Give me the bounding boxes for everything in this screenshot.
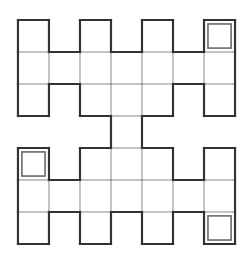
grid-cell[interactable] — [111, 180, 142, 212]
grid-cell[interactable] — [18, 180, 49, 212]
puzzle-board — [16, 18, 237, 246]
grid-cell[interactable] — [173, 52, 204, 84]
grid-cell[interactable] — [80, 84, 111, 116]
grid-cell[interactable] — [111, 84, 142, 116]
grid-cell[interactable] — [80, 148, 111, 180]
grid-cell[interactable] — [18, 212, 49, 244]
grid-cell[interactable] — [204, 84, 235, 116]
grid-cell[interactable] — [18, 52, 49, 84]
grid-cell[interactable] — [204, 148, 235, 180]
grid-cell[interactable] — [142, 52, 173, 84]
grid-cell[interactable] — [18, 20, 49, 52]
grid-cell[interactable] — [111, 52, 142, 84]
grid-cell[interactable] — [111, 148, 142, 180]
grid-cell[interactable] — [173, 180, 204, 212]
grid-cell[interactable] — [142, 84, 173, 116]
grid-cell[interactable] — [80, 180, 111, 212]
grid-cell[interactable] — [142, 20, 173, 52]
grid-cell[interactable] — [204, 52, 235, 84]
grid-cell[interactable] — [49, 52, 80, 84]
grid-cell[interactable] — [80, 52, 111, 84]
puzzle-grid — [16, 18, 237, 246]
grid-cell[interactable] — [142, 212, 173, 244]
grid-cell[interactable] — [111, 116, 142, 148]
grid-cell[interactable] — [49, 180, 80, 212]
grid-cell[interactable] — [80, 212, 111, 244]
grid-cell[interactable] — [80, 20, 111, 52]
grid-cell[interactable] — [142, 180, 173, 212]
grid-cell[interactable] — [18, 84, 49, 116]
grid-cell[interactable] — [142, 148, 173, 180]
grid-cell[interactable] — [204, 180, 235, 212]
